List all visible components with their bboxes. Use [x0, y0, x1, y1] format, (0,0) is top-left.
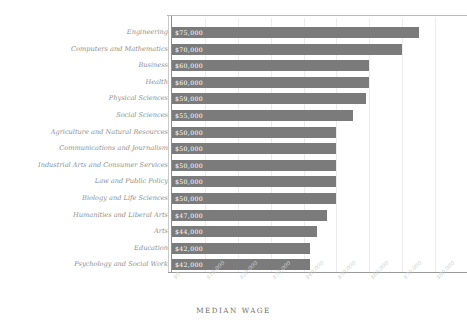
chart-top-rule [167, 15, 467, 16]
category-label: Arts [154, 226, 168, 237]
bar-value-label: $75,000 [175, 27, 203, 38]
category-label: Education [134, 243, 168, 254]
bar-value-label: $60,000 [175, 60, 203, 71]
category-label: Communications and Journalism [59, 143, 168, 154]
category-label: Physical Sciences [109, 93, 168, 104]
category-label: Law and Public Policy [95, 176, 168, 187]
category-label: Business [138, 60, 168, 71]
bar-value-label: $42,000 [175, 243, 203, 254]
x-axis-title: MEDIAN WAGE [0, 306, 467, 315]
category-label: Biology and Life Sciences [82, 193, 168, 204]
bar-row[interactable]: $70,000 [172, 44, 435, 55]
category-label: Social Sciences [116, 110, 168, 121]
bar-value-label: $70,000 [175, 44, 203, 55]
category-label: Psychology and Social Work [74, 259, 168, 270]
category-label: Humanities and Liberal Arts [73, 210, 168, 221]
category-label: Computers and Mathematics [71, 44, 168, 55]
bar-value-label: $50,000 [175, 143, 203, 154]
bar-value-label: $50,000 [175, 193, 203, 204]
x-tick-label: $80,000 [435, 260, 456, 281]
bar-row[interactable]: $47,000 [172, 210, 435, 221]
bar-row[interactable]: $50,000 [172, 160, 435, 171]
bar-row[interactable]: $50,000 [172, 176, 435, 187]
median-wage-bar-chart: EngineeringComputers and MathematicsBusi… [0, 0, 467, 323]
bar-value-label: $44,000 [175, 226, 203, 237]
plot-area: $75,000$70,000$60,000$60,000$59,000$55,0… [172, 18, 435, 272]
bar-row[interactable]: $44,000 [172, 226, 435, 237]
bar-row[interactable]: $50,000 [172, 143, 435, 154]
bar-value-label: $50,000 [175, 176, 203, 187]
bar[interactable] [172, 44, 402, 55]
category-axis-labels: EngineeringComputers and MathematicsBusi… [0, 18, 168, 272]
bar-row[interactable]: $42,000 [172, 243, 435, 254]
bar-rows: $75,000$70,000$60,000$60,000$59,000$55,0… [172, 18, 435, 272]
category-label: Industrial Arts and Consumer Services [38, 160, 168, 171]
gridline [435, 18, 436, 272]
bar-row[interactable]: $60,000 [172, 60, 435, 71]
category-label: Health [145, 77, 168, 88]
category-label: Agriculture and Natural Resources [51, 127, 168, 138]
y-axis-outer-line [168, 16, 169, 273]
bar-row[interactable]: $75,000 [172, 27, 435, 38]
bar-value-label: $50,000 [175, 127, 203, 138]
bar-value-label: $59,000 [175, 93, 203, 104]
bar-value-label: $47,000 [175, 210, 203, 221]
bar-value-label: $55,000 [175, 110, 203, 121]
bar[interactable] [172, 27, 419, 38]
category-label: Engineering [127, 27, 168, 38]
x-axis-tick-labels: $0$10,000$20,000$30,000$40,000$50,000$60… [172, 274, 467, 302]
bar-row[interactable]: $55,000 [172, 110, 435, 121]
bar-value-label: $50,000 [175, 160, 203, 171]
bar-row[interactable]: $60,000 [172, 77, 435, 88]
bar-value-label: $60,000 [175, 77, 203, 88]
bar-row[interactable]: $59,000 [172, 93, 435, 104]
bar-row[interactable]: $50,000 [172, 127, 435, 138]
bar-value-label: $42,000 [175, 259, 203, 270]
bar-row[interactable]: $50,000 [172, 193, 435, 204]
